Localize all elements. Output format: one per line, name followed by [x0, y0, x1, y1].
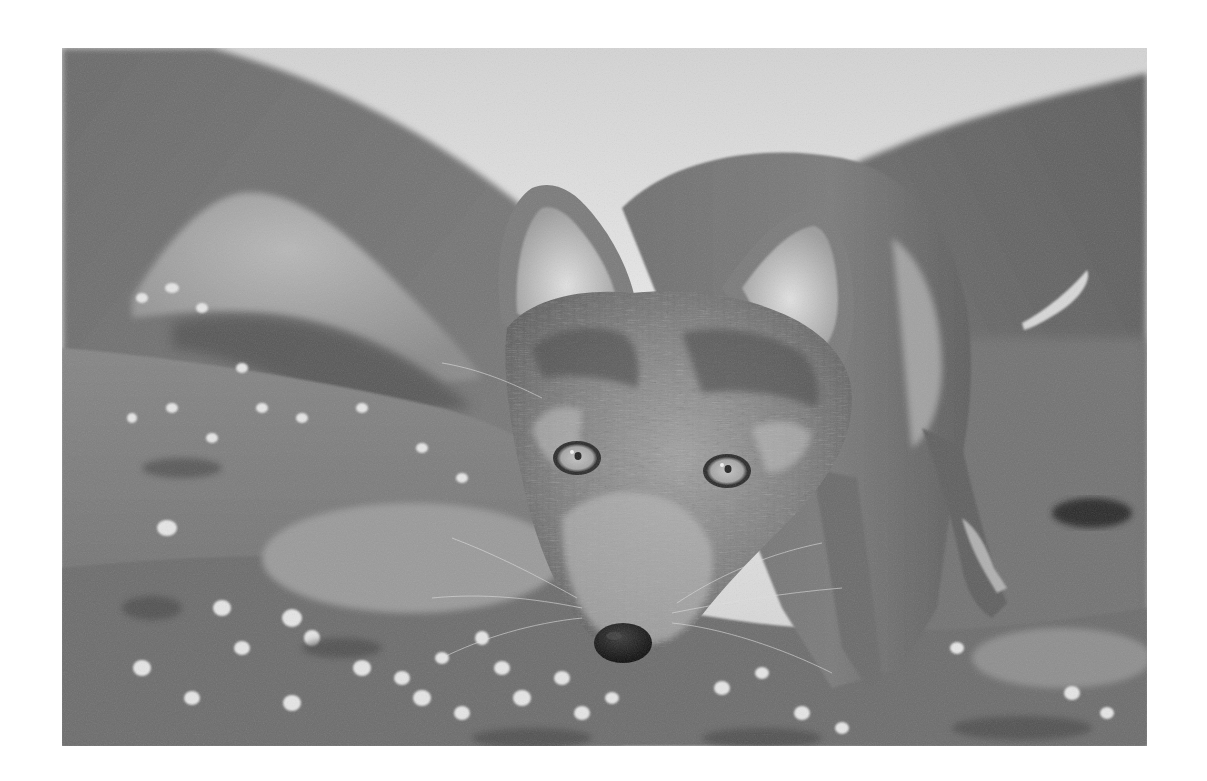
- fox-photo: Arctic fox close-up, looking into camera…: [62, 48, 1147, 746]
- page: Arctic fox close-up, looking into camera…: [0, 0, 1207, 781]
- film-grain: [62, 48, 1147, 746]
- fox-photo-illustration: [62, 48, 1147, 746]
